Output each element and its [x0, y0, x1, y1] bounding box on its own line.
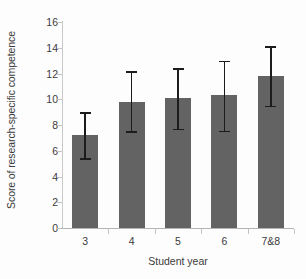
y-axis-tick-label: 10: [36, 94, 58, 105]
y-axis-tick-mark: [57, 202, 62, 203]
x-axis-tick-mark: [294, 229, 295, 234]
y-axis-tick-mark: [57, 99, 62, 100]
error-bar-stem: [224, 61, 226, 131]
y-axis-tick-mark: [57, 125, 62, 126]
x-axis-tick-label: 3: [82, 236, 88, 247]
y-axis-tick-mark: [57, 228, 62, 229]
y-axis-tick-mark: [57, 151, 62, 152]
x-axis-title: Student year: [62, 255, 294, 267]
error-bar-stem: [270, 46, 272, 105]
y-axis-title-text: Score of research-specific competence: [5, 31, 17, 209]
bar-chart: Score of research-specific competence 02…: [0, 0, 306, 279]
y-axis-tick-label: 4: [36, 171, 58, 182]
error-bar-stem: [131, 71, 133, 132]
error-bar-cap-upper: [126, 71, 137, 73]
x-axis-tick-mark: [108, 229, 109, 234]
y-axis-tick-label: 6: [36, 146, 58, 157]
y-axis-tick-label: 12: [36, 68, 58, 79]
x-axis-line: [62, 228, 294, 229]
error-bar-stem: [177, 68, 179, 129]
error-bar-cap-upper: [173, 68, 184, 70]
y-axis-tick-mark: [57, 48, 62, 49]
y-axis-tick-label: 2: [36, 197, 58, 208]
y-axis-tick-mark: [57, 177, 62, 178]
x-axis-tick-mark: [201, 229, 202, 234]
error-bar-cap-lower: [219, 131, 230, 133]
y-axis-tick-label: 8: [36, 120, 58, 131]
y-axis-title: Score of research-specific competence: [0, 0, 22, 240]
y-axis-tick-label: 14: [36, 43, 58, 54]
error-bar-cap-lower: [80, 158, 91, 160]
error-bar-stem: [84, 112, 86, 158]
y-axis-tick-label: 0: [36, 223, 58, 234]
x-axis-tick-label: 4: [129, 236, 135, 247]
y-axis-tick-label: 16: [36, 17, 58, 28]
x-axis-tick-mark: [155, 229, 156, 234]
error-bar-cap-upper: [265, 46, 276, 48]
x-axis-tick-label: 7&8: [261, 236, 280, 247]
error-bar-cap-lower: [265, 106, 276, 108]
error-bar-cap-upper: [219, 61, 230, 63]
y-axis-tick-mark: [57, 22, 62, 23]
error-bar-cap-lower: [126, 131, 137, 133]
x-axis-tick-mark: [248, 229, 249, 234]
y-axis-tick-mark: [57, 74, 62, 75]
error-bar-cap-upper: [80, 112, 91, 114]
y-axis-tick-labels: 0246810121416: [34, 0, 58, 279]
error-bar-cap-lower: [173, 129, 184, 131]
x-axis-tick-label: 6: [221, 236, 227, 247]
x-axis-tick-label: 5: [175, 236, 181, 247]
